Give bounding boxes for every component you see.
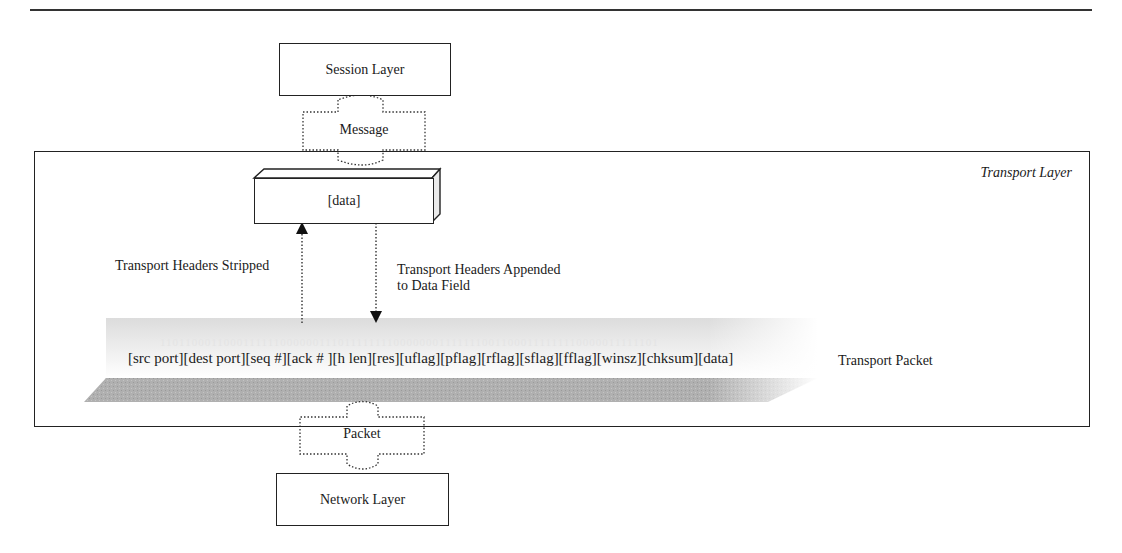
transport-layer-frame [34,151,1090,427]
data-block: [data] [254,178,434,224]
transport-packet-label: Transport Packet [838,353,933,369]
packet-fields: [src port][dest port][seq #][ack # ][h l… [128,350,733,367]
binary-watermark: 1101100011000111111000000111011111111000… [160,336,659,348]
network-layer-box: Network Layer [276,473,449,526]
packet-label: Packet [302,426,422,442]
headers-appended-label-line1: Transport Headers Appended [397,262,561,278]
transport-layer-label: Transport Layer [981,165,1072,181]
headers-appended-label-line2: to Data Field [397,278,470,294]
headers-stripped-label: Transport Headers Stripped [115,258,269,274]
data-block-label: [data] [328,193,361,209]
network-layer-label: Network Layer [320,492,405,508]
message-label: Message [304,122,424,138]
session-layer-label: Session Layer [326,62,405,78]
session-layer-box: Session Layer [279,43,451,96]
